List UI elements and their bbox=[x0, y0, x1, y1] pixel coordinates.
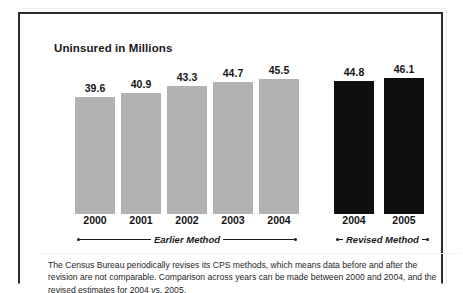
bar-earlier-2003 bbox=[213, 82, 253, 214]
bar-revised-2004 bbox=[334, 81, 374, 214]
bar-group: 45.5 bbox=[259, 66, 299, 214]
bracket-line-right bbox=[223, 239, 294, 240]
year-label-earlier-2002: 2002 bbox=[167, 214, 207, 226]
bar-value-label: 43.3 bbox=[167, 71, 207, 83]
bracket-end-dot-icon bbox=[426, 238, 429, 241]
bar-value-label: 40.9 bbox=[121, 78, 161, 90]
bar-group: 46.1 bbox=[384, 66, 424, 214]
bar-group: 44.7 bbox=[213, 66, 253, 214]
year-label-earlier-2000: 2000 bbox=[75, 214, 115, 226]
method-bracket-row: Earlier Method Revised Method bbox=[38, 233, 463, 248]
year-label-revised-2004: 2004 bbox=[334, 214, 374, 226]
bar-value-label: 46.1 bbox=[384, 63, 424, 75]
bar-earlier-2001 bbox=[121, 93, 161, 214]
bar-earlier-2002 bbox=[167, 86, 207, 214]
bar-earlier-2000 bbox=[75, 97, 115, 214]
year-label-earlier-2001: 2001 bbox=[121, 214, 161, 226]
bar-group: 43.3 bbox=[167, 66, 207, 214]
bracket-label-earlier: Earlier Method bbox=[151, 234, 223, 245]
bar-value-label: 44.8 bbox=[334, 66, 374, 78]
bar-revised-2005 bbox=[384, 78, 424, 214]
bar-group: 44.8 bbox=[334, 66, 374, 214]
year-label-earlier-2004: 2004 bbox=[259, 214, 299, 226]
bar-group: 40.9 bbox=[121, 66, 161, 214]
bracket-revised-method: Revised Method bbox=[336, 233, 422, 246]
page-title: Uninsured in Millions bbox=[54, 42, 172, 54]
bar-value-label: 45.5 bbox=[259, 64, 299, 76]
year-label-earlier-2003: 2003 bbox=[213, 214, 253, 226]
bar-chart-plot-area: 39.640.943.344.745.544.846.1 bbox=[38, 66, 463, 214]
bar-value-label: 44.7 bbox=[213, 67, 253, 79]
bar-earlier-2004 bbox=[259, 79, 299, 214]
bracket-line-left bbox=[80, 239, 151, 240]
footnote-text: The Census Bureau periodically revises i… bbox=[48, 259, 448, 293]
x-axis-year-labels: 2000200120022003200420042005 bbox=[38, 214, 463, 230]
footnote-divider bbox=[40, 253, 461, 254]
bar-group: 39.6 bbox=[75, 66, 115, 214]
bracket-earlier-method: Earlier Method bbox=[77, 233, 297, 246]
year-label-revised-2005: 2005 bbox=[384, 214, 424, 226]
bracket-end-dot-icon bbox=[294, 238, 297, 241]
bracket-label-revised: Revised Method bbox=[343, 234, 422, 245]
figure-frame: Uninsured in Millions 39.640.943.344.745… bbox=[18, 12, 443, 284]
bar-value-label: 39.6 bbox=[75, 82, 115, 94]
